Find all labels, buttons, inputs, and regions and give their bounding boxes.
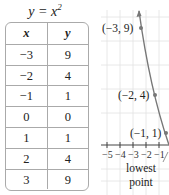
tick-label: −3 <box>128 149 139 160</box>
cell-x: 0 <box>6 107 47 127</box>
cell-y: 4 <box>47 66 89 86</box>
cell-x: −1 <box>6 86 47 106</box>
tick-label: −1 <box>154 149 165 160</box>
cell-x: −3 <box>6 45 47 65</box>
equation-exponent: 2 <box>57 2 62 12</box>
table-row: 0 0 <box>6 106 88 127</box>
table-row: 3 9 <box>6 169 88 190</box>
annotation-lowest: lowest <box>126 162 157 174</box>
parabola-graph: (−3, 9) (−2, 4) (−1, 1) −5 −4 −3 −2 −1 l… <box>98 0 169 195</box>
label-neg1-1: (−1, 1) <box>130 127 162 140</box>
tick-label: −4 <box>115 149 126 160</box>
cell-y: 9 <box>47 45 89 65</box>
cell-y: 4 <box>47 149 89 169</box>
cell-y: 1 <box>47 86 89 106</box>
table-row: −1 1 <box>6 85 88 106</box>
cell-y: 9 <box>47 170 89 190</box>
equation-title: y = x2 <box>0 2 90 20</box>
tick-label: −5 <box>102 149 113 160</box>
arrow-head-icon <box>137 10 142 17</box>
cell-x: 2 <box>6 149 47 169</box>
table-row: 1 1 <box>6 127 88 148</box>
table-row: −2 4 <box>6 65 88 86</box>
header-x: x <box>6 23 47 44</box>
table-header: x y <box>6 23 88 44</box>
annotation-point: point <box>129 176 153 189</box>
table-row: −3 9 <box>6 44 88 65</box>
label-neg3-9: (−3, 9) <box>102 22 134 35</box>
cell-x: −2 <box>6 66 47 86</box>
point-neg3-9 <box>139 26 143 30</box>
cell-x: 1 <box>6 128 47 148</box>
tick-label: −2 <box>141 149 152 160</box>
equation-text: y = x <box>28 4 57 19</box>
cell-x: 3 <box>6 170 47 190</box>
cell-y: 1 <box>47 128 89 148</box>
header-y: y <box>47 23 89 44</box>
parabola-curve <box>139 11 169 145</box>
table-row: 2 4 <box>6 148 88 169</box>
label-neg2-4: (−2, 4) <box>118 89 150 102</box>
cell-y: 0 <box>47 107 89 127</box>
point-neg2-4 <box>153 93 157 97</box>
point-neg1-1 <box>164 131 168 135</box>
values-table: x y −3 9 −2 4 −1 1 0 0 1 1 2 4 3 9 <box>5 22 89 191</box>
